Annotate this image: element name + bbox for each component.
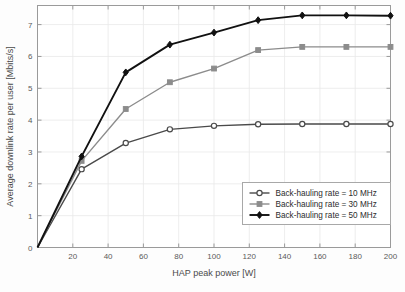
y-axis-tick-label: 6 (28, 52, 33, 61)
series-marker (123, 140, 128, 145)
y-axis-tick-label: 5 (28, 84, 33, 93)
x-axis-title: HAP peak power [W] (172, 268, 255, 278)
x-axis-tick-label: 40 (104, 252, 113, 261)
y-axis-tick-label: 2 (28, 180, 33, 189)
x-axis-tick-label: 180 (349, 252, 363, 261)
x-axis-tick-label: 200 (384, 252, 398, 261)
legend-marker-2 (257, 202, 262, 207)
x-axis-tick-label: 160 (313, 252, 327, 261)
x-axis-tick-label: 140 (278, 252, 292, 261)
chart-figure: 2040608010012014016018020001234567HAP pe… (0, 0, 405, 292)
legend-label-1: Back-hauling rate = 10 MHz (276, 189, 377, 198)
series-marker (388, 121, 393, 126)
legend-label-3: Back-hauling rate = 50 MHz (276, 211, 377, 220)
series-marker (123, 107, 128, 112)
series-marker (344, 121, 349, 126)
x-axis-tick-label: 100 (207, 252, 221, 261)
series-marker (167, 127, 172, 132)
x-axis-tick-label: 60 (139, 252, 148, 261)
x-axis-tick-label: 20 (68, 252, 77, 261)
y-axis-tick-label: 4 (28, 116, 33, 125)
series-marker (300, 44, 305, 49)
series-marker (256, 122, 261, 127)
y-axis-tick-label: 0 (28, 244, 33, 253)
legend-marker-1 (257, 190, 262, 195)
x-axis-tick-label: 80 (174, 252, 183, 261)
series-marker (212, 66, 217, 71)
series-marker (388, 44, 393, 49)
series-marker (256, 48, 261, 53)
legend-label-2: Back-hauling rate = 30 MHz (276, 200, 377, 209)
y-axis-tick-label: 7 (28, 21, 33, 30)
series-marker (344, 44, 349, 49)
y-axis-title: Average downlink rate per user [Mbits/s] (5, 46, 15, 206)
series-marker (79, 167, 84, 172)
series-marker (167, 80, 172, 85)
y-axis-tick-label: 1 (28, 212, 33, 221)
line-chart: 2040608010012014016018020001234567HAP pe… (0, 0, 405, 292)
series-marker (300, 121, 305, 126)
y-axis-tick-label: 3 (28, 148, 33, 157)
series-marker (211, 123, 216, 128)
x-axis-tick-label: 120 (243, 252, 257, 261)
